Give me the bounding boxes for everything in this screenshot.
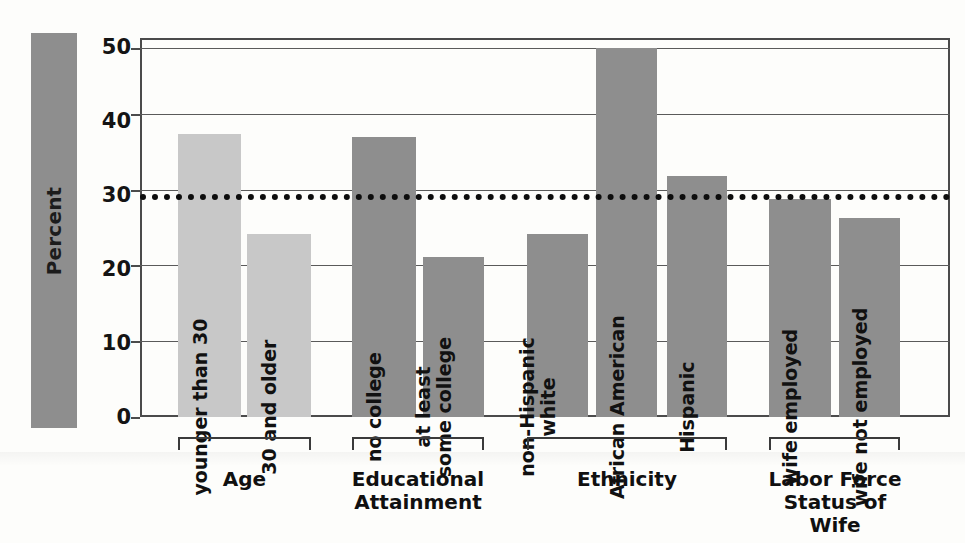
bar-no-college[interactable]: no college — [352, 137, 416, 417]
bar-hispanic[interactable]: Hispanic — [667, 176, 727, 417]
gridline-40 — [140, 114, 950, 115]
bar-30-and-older[interactable]: 30 and older — [247, 234, 311, 417]
group-caption-age: Age — [178, 468, 311, 491]
y-tickmark-40 — [131, 114, 140, 116]
y-tick-30: 30 — [85, 185, 131, 206]
y-tickmark-20 — [131, 265, 140, 267]
plot-area: younger than 3030 and olderno collegeat … — [140, 38, 950, 417]
y-tick-0: 0 — [85, 407, 131, 428]
y-axis-label-block: Percent — [31, 33, 77, 428]
bar-label: 30 and older — [259, 339, 279, 474]
gridline-50 — [140, 48, 950, 49]
y-tick-20: 20 — [85, 259, 131, 280]
reference-line — [140, 194, 950, 200]
group-caption-education: Educational Attainment — [340, 468, 496, 514]
chart-figure: Percent 50 40 30 20 10 0 younger than 30… — [0, 0, 965, 543]
y-tick-50: 50 — [85, 37, 131, 58]
bar-label: non-Hispanic white — [516, 337, 557, 476]
bar-label: wife employed — [780, 329, 800, 486]
bar-younger-than-30[interactable]: younger than 30 — [178, 134, 241, 417]
group-bracket-age — [178, 437, 311, 450]
group-bracket-ethnicity — [527, 437, 727, 450]
group-caption-labor-force: Labor Force Status of Wife — [755, 468, 915, 538]
group-bracket-labor-force — [769, 437, 900, 450]
group-caption-ethnicity: Ethnicity — [527, 468, 727, 491]
y-tick-40: 40 — [85, 111, 131, 132]
bar-label: at least some college — [412, 337, 453, 477]
y-tick-10: 10 — [85, 333, 131, 354]
y-axis-label: Percent — [42, 186, 66, 275]
y-tickmark-0 — [131, 417, 140, 419]
bar-wife-not-employed[interactable]: wife not employed — [839, 218, 900, 417]
scan-artifact-band — [0, 452, 965, 466]
y-axis-tick-labels: 50 40 30 20 10 0 — [85, 0, 131, 543]
y-tickmark-10 — [131, 341, 140, 343]
bar-african-american[interactable]: African American — [596, 48, 657, 417]
gridline-30 — [140, 190, 950, 191]
y-tickmark-30 — [131, 190, 140, 192]
bar-at-least-some-college[interactable]: at least some college — [423, 257, 484, 417]
bar-non-hispanic-white[interactable]: non-Hispanic white — [527, 234, 588, 417]
bar-wife-employed[interactable]: wife employed — [769, 199, 831, 417]
group-bracket-education — [352, 437, 484, 450]
y-tickmark-50 — [131, 48, 140, 50]
